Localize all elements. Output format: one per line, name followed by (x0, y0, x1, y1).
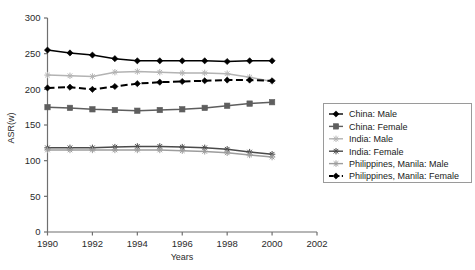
y-tick-label-50: 50 (30, 191, 41, 202)
data-point-1993 (112, 69, 118, 75)
legend-swatch-marker (333, 124, 338, 129)
data-point-2000 (269, 99, 274, 104)
y-tick-label-300: 300 (25, 12, 41, 23)
x-tick-label-1992: 1992 (82, 238, 103, 249)
data-point-1992 (90, 107, 95, 112)
data-point-1996 (180, 107, 185, 112)
y-tick-label-150: 150 (25, 119, 41, 130)
y-tick-label-250: 250 (25, 48, 41, 59)
data-point-1990 (44, 147, 50, 153)
legend-label: India: Male (349, 134, 393, 144)
chart-figure: 050100150200250300 ASR(w) 19901992199419… (0, 0, 475, 270)
data-point-1998 (224, 103, 229, 108)
data-point-1998 (224, 70, 230, 76)
data-point-2000 (269, 154, 275, 160)
data-point-1993 (112, 147, 118, 153)
x-tick-label-1996: 1996 (172, 238, 193, 249)
y-tick-label-100: 100 (25, 155, 41, 166)
x-tick-label-1998: 1998 (217, 238, 238, 249)
legend-swatch-marker (333, 160, 339, 166)
data-point-1991 (67, 147, 73, 153)
y-axis-title: ASR(w) (6, 112, 16, 143)
data-point-1995 (157, 147, 163, 153)
data-point-1997 (202, 70, 208, 76)
data-point-1991 (67, 73, 73, 79)
data-point-1994 (134, 68, 140, 74)
x-tick-label-1990: 1990 (37, 238, 58, 249)
legend-label: China: Male (349, 109, 397, 119)
data-point-1997 (202, 105, 207, 110)
chart-legend: China: MaleChina: FemaleIndia: MaleIndia… (324, 104, 472, 183)
legend-label: India: Female (349, 147, 404, 157)
data-point-1999 (246, 152, 252, 158)
x-tick-label-1994: 1994 (127, 238, 148, 249)
data-point-1996 (179, 147, 185, 153)
data-point-1993 (112, 107, 117, 112)
data-point-1996 (179, 70, 185, 76)
x-tick-label-2000: 2000 (262, 238, 283, 249)
data-point-1991 (67, 105, 72, 110)
x-tick-label-2002: 2002 (306, 238, 327, 249)
legend-label: Philippines, Manila: Male (349, 159, 449, 169)
data-point-1994 (135, 108, 140, 113)
legend-swatch-marker (333, 148, 339, 154)
legend-swatch-marker (333, 136, 339, 142)
y-tick-label-0: 0 (35, 226, 40, 237)
data-point-1995 (157, 69, 163, 75)
data-point-1995 (157, 107, 162, 112)
data-point-1990 (44, 72, 50, 78)
legend-item-5[interactable]: Philippines, Manila: Female (329, 171, 459, 181)
data-point-1994 (134, 147, 140, 153)
data-point-1998 (224, 150, 230, 156)
y-tick-label-200: 200 (25, 84, 41, 95)
data-point-1990 (45, 104, 50, 109)
data-point-1992 (89, 73, 95, 79)
data-point-1997 (202, 148, 208, 154)
data-point-1999 (247, 101, 252, 106)
data-point-1992 (89, 147, 95, 153)
x-axis-title: Years (171, 252, 194, 262)
legend-label: China: Female (349, 122, 408, 132)
legend-label: Philippines, Manila: Female (349, 171, 459, 181)
